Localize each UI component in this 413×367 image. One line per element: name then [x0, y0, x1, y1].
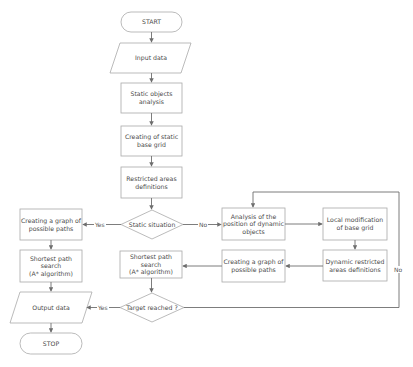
stop-label: STOP [20, 333, 82, 354]
start-label: START [121, 12, 182, 32]
edge-label-static-no: No [198, 221, 208, 228]
static-grid-label: Creating of static base grid [121, 126, 182, 156]
static-analysis-label: Static objects analysis [121, 83, 182, 113]
graph-left-label: Creating a graph of possible paths [20, 209, 82, 240]
edge-label-target-yes: Yes [97, 304, 109, 311]
graph-mid-label: Creating a graph of possible paths [222, 250, 285, 282]
output-data-label: Output data [12, 292, 90, 323]
dynamic-analysis-label: Analysis of the position of dynamic obje… [222, 208, 285, 240]
edge-label-target-no: No [393, 266, 403, 273]
local-mod-label: Local modification of base grid [323, 208, 387, 240]
shortest-mid-label: Shortest path search (A* algorithm) [120, 251, 182, 278]
restricted-label: Restricted areas definitions [121, 167, 182, 198]
target-decision-label: Target reached ? [120, 293, 184, 322]
static-decision-label: Static situation [121, 210, 183, 239]
input-data-label: Input data [112, 43, 190, 73]
edge-label-static-yes: Yes [94, 221, 106, 228]
shortest-left-label: Shortest path search (A* algorithm) [20, 250, 82, 282]
dynamic-restricted-label: Dynamic restricted areas definitions [323, 250, 387, 281]
